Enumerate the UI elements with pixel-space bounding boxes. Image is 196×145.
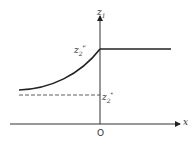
x-axis-label: x: [183, 118, 188, 127]
origin-label: O: [97, 129, 104, 138]
z-axis-label: z1: [97, 8, 106, 19]
profile-curve: [19, 49, 100, 90]
upper-value-label: z2*': [74, 45, 86, 57]
lower-value-label: z2*: [102, 92, 113, 104]
diagram-canvas: [0, 0, 196, 145]
